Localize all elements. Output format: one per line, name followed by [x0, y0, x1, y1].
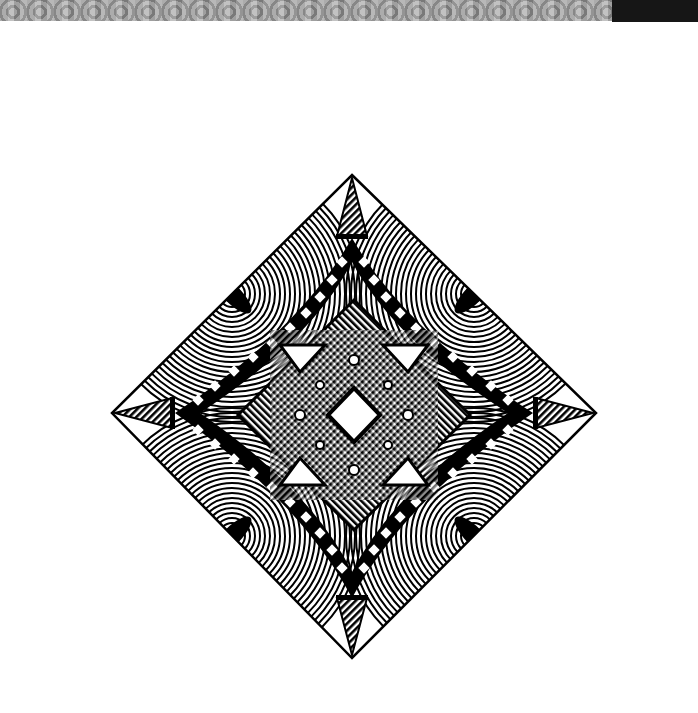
- central-knot: [238, 300, 470, 530]
- mandala-artwork: [0, 0, 698, 713]
